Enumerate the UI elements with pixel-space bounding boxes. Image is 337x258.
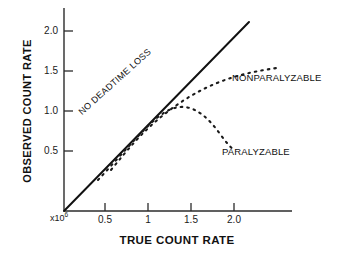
y-tick-label-2.0: 2.0	[32, 25, 58, 36]
annotation-paralyzable: PARALYZABLE	[222, 146, 290, 157]
x-tick-label-2.0: 2.0	[221, 214, 247, 225]
y-tick-label-1.0: 1.0	[32, 105, 58, 116]
y-axis-ticks	[64, 31, 73, 151]
x-axis-title: TRUE COUNT RATE	[64, 234, 290, 246]
figure-container: OBSERVED COUNT RATE TRUE COUNT RATE 2.0 …	[0, 0, 337, 258]
axis-exponent-sup: 6	[65, 211, 69, 218]
annotation-nonparalyzable: NONPARALYZABLE	[232, 72, 321, 83]
axis-exponent-base: x10	[50, 213, 65, 223]
y-tick-label-1.5: 1.5	[32, 65, 58, 76]
axis-exponent-label: x106	[50, 211, 68, 223]
series-line-no-deadtime-loss	[64, 22, 249, 211]
y-tick-label-0.5: 0.5	[32, 145, 58, 156]
x-tick-label-1.5: 1.5	[178, 214, 204, 225]
x-axis-ticks	[105, 203, 234, 211]
series-curve-paralyzable	[98, 107, 234, 180]
x-tick-label-0.5: 0.5	[92, 214, 118, 225]
x-tick-label-1: 1	[135, 214, 161, 225]
